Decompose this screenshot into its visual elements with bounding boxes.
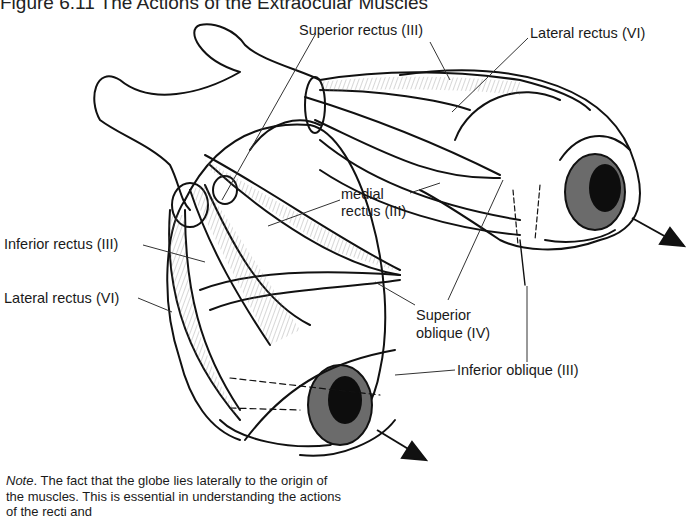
label-lateral-rectus-left: Lateral rectus (VI) (4, 290, 119, 307)
extraocular-muscles-illustration (0, 0, 690, 530)
leader-inferior-oblique (395, 370, 455, 375)
figure-note: Note. The fact that the globe lies later… (6, 473, 346, 520)
label-superior-oblique-2: oblique (IV) (416, 325, 490, 342)
label-medial-rectus-1: medial (341, 186, 384, 203)
leader-lateral-rectus-left (138, 298, 172, 312)
note-lead: Note (6, 473, 33, 488)
arrow-left-eye-icon (377, 430, 426, 460)
arrow-right-eye-icon (632, 218, 684, 246)
right-pupil (589, 164, 621, 212)
label-inferior-oblique: Inferior oblique (III) (457, 362, 579, 379)
note-text: . The fact that the globe lies laterally… (6, 473, 341, 519)
label-superior-oblique-1: Superior (416, 307, 471, 324)
label-medial-rectus-2: rectus (III) (341, 203, 406, 220)
orbit-outline (94, 24, 320, 210)
label-inferior-rectus: Inferior rectus (III) (4, 236, 118, 253)
leader-superior-oblique (375, 282, 415, 305)
left-pupil (328, 376, 362, 424)
label-lateral-rectus-top: Lateral rectus (VI) (530, 25, 645, 42)
label-superior-rectus: Superior rectus (III) (299, 22, 423, 39)
